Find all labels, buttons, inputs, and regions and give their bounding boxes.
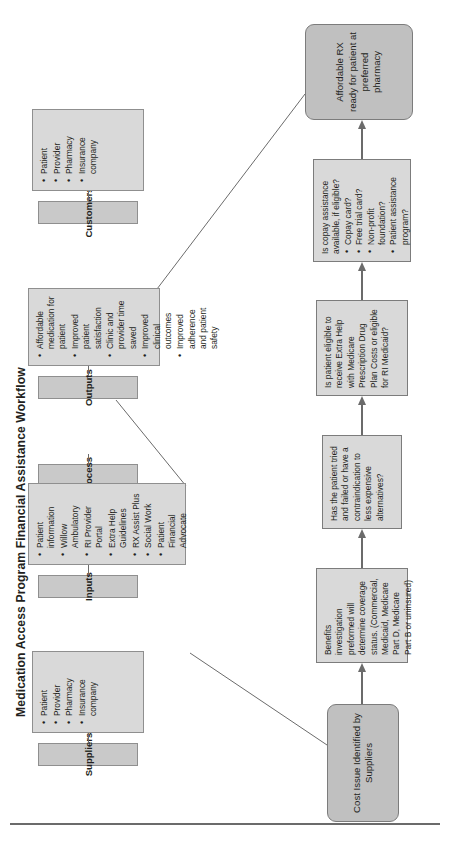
stub-suppliers [88,733,89,743]
list-item: Patient [39,659,50,725]
sipoc-card-inputs: Patient information Willow Ambulatory RI… [28,483,186,565]
flow-step-copay-text: Is copay assistance available, if eligib… [320,167,343,254]
list-item: Pharmacy [64,117,75,183]
flow-step-tried-failed[interactable]: Has the patient tried and failed or have… [322,435,402,529]
sipoc-list-customers: Patient Provider Pharmacy Insurance comp… [39,117,100,183]
list-item: Improved clinical outcomes [140,296,174,358]
sipoc-header-customers[interactable]: Customers [38,201,138,224]
list-item: Improved adherence and patient safety [175,296,220,358]
list-item: Extra Help Guidelines [107,491,129,557]
stub-outputs [88,366,89,376]
stub-inputs [88,565,89,575]
list-item: Copay card? [343,167,354,254]
sipoc-card-customers: Patient Provider Pharmacy Insurance comp… [32,109,144,191]
diagram-canvas: Medication Access Program Financial Assi… [0,0,449,849]
list-item: Free trial card? [354,167,365,254]
sipoc-card-outputs: Affordable medication for patient Improv… [28,288,160,366]
list-item: Willow Ambulatory [59,491,81,557]
list-item: Patient assistance program? [388,167,411,254]
list-item: RI Provider Portal [83,491,105,557]
list-item: RX Assist Plus [131,491,142,557]
flow-start-label: Cost Issue Identified by Suppliers [351,712,376,814]
list-item: Insurance company [77,659,99,725]
sipoc-header-inputs[interactable]: Inputs [38,575,138,598]
stub-process [88,454,89,464]
list-item: Patient Financial Advocate [156,491,190,557]
flow-step-extra-help[interactable]: Is patient eligible to receive Extra Hel… [316,300,408,396]
stub-customers [88,191,89,201]
list-item: Insurance company [77,117,99,183]
flow-step-benefits-text: Benefits investigation preformed will de… [323,576,414,655]
sipoc-header-suppliers[interactable]: Suppliers [38,743,138,766]
list-item: Pharmacy [64,659,75,725]
arrowhead-5 [358,120,366,129]
sipoc-list-outputs: Affordable medication for patient Improv… [35,296,220,358]
link-suppliers-to-start [190,653,327,745]
page-edge-rule [10,823,440,825]
sipoc-list-inputs: Patient information Willow Ambulatory RI… [35,491,190,557]
sipoc-card-suppliers: Patient Provider Pharmacy Insurance comp… [32,651,144,733]
list-item: Patient [39,117,50,183]
flow-step-copay[interactable]: Is copay assistance available, if eligib… [313,159,411,262]
list-item: Social Work [143,491,154,557]
diagram-rotation-wrapper: Medication Access Program Financial Assi… [0,0,449,849]
flow-step-benefits[interactable]: Benefits investigation preformed will de… [316,568,408,663]
flow-end-terminator[interactable]: Affordable RX ready for patient at prefe… [305,24,413,120]
flow-step-extra-help-text: Is patient eligible to receive Extra Hel… [323,308,391,388]
list-item: Improved patient satisfaction [70,296,104,358]
list-item: Provider [52,659,63,725]
sipoc-header-inputs-label: Inputs [83,572,94,601]
list-item: Clinic and provider time saved [105,296,139,358]
flow-step-copay-options: Copay card? Free trial card? Non-profit … [343,167,411,254]
flow-step-tried-failed-text: Has the patient tried and failed or have… [329,443,386,521]
arrowhead-3 [358,396,366,405]
arrowhead-4 [358,262,366,271]
link-outputs-to-end [157,94,305,289]
flow-start-terminator[interactable]: Cost Issue Identified by Suppliers [327,704,399,822]
list-item: Affordable medication for patient [35,296,69,358]
arrowhead-2 [358,529,366,538]
list-item: Patient information [35,491,57,557]
sipoc-header-outputs[interactable]: Outputs [38,376,138,399]
flow-end-label: Affordable RX ready for patient at prefe… [334,32,384,112]
list-item: Provider [52,117,63,183]
arrowhead-1 [358,663,366,672]
sipoc-list-suppliers: Patient Provider Pharmacy Insurance comp… [39,659,100,725]
page-title: Medication Access Program Financial Assi… [14,367,28,717]
list-item: Non-profit foundation? [366,167,389,254]
